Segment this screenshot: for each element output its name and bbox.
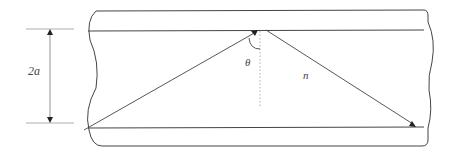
angle-label: θ (245, 56, 251, 68)
core-bottom-boundary (88, 127, 424, 128)
refractive-index-label: n (303, 69, 309, 81)
incident-arrowhead-icon (251, 30, 258, 36)
core-width-label: 2a (28, 64, 40, 78)
incident-ray (84, 32, 256, 130)
dim-arrowhead-top-icon (47, 29, 53, 35)
reflected-ray (266, 30, 413, 124)
dim-arrowhead-bottom-icon (47, 117, 53, 123)
angle-arc (249, 38, 260, 49)
waveguide-diagram: 2a θ n (0, 0, 460, 156)
